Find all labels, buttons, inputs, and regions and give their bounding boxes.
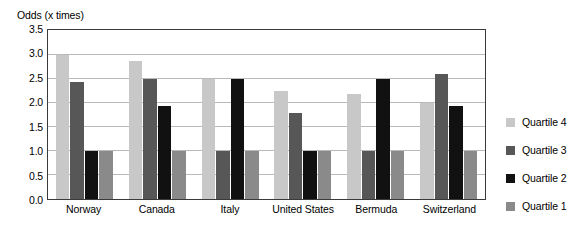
y-axis-title: Odds (x times) xyxy=(17,9,84,21)
bar[interactable] xyxy=(391,151,405,199)
bar[interactable] xyxy=(347,94,361,199)
x-axis-category-label: United States xyxy=(267,203,340,215)
bar-group xyxy=(121,30,194,199)
legend-swatch-icon xyxy=(506,202,515,211)
x-axis-category-label: Bermuda xyxy=(340,203,413,215)
bar[interactable] xyxy=(172,151,186,199)
y-axis-tick-label: 3.0 xyxy=(29,47,43,59)
legend-swatch-icon xyxy=(506,118,515,127)
y-axis-tick-label: 0.5 xyxy=(29,170,43,182)
bar[interactable] xyxy=(216,151,230,199)
bar[interactable] xyxy=(464,151,478,199)
legend-item[interactable]: Quartile 2 xyxy=(506,164,567,192)
legend-swatch-icon xyxy=(506,146,515,155)
bar-group xyxy=(266,30,339,199)
odds-quartile-bar-chart: Odds (x times) 0.00.51.01.52.02.53.03.5 … xyxy=(0,0,586,244)
bar[interactable] xyxy=(129,61,143,199)
bar[interactable] xyxy=(362,151,376,199)
bar[interactable] xyxy=(143,79,157,199)
legend-item[interactable]: Quartile 4 xyxy=(506,108,567,136)
x-axis-category-label: Canada xyxy=(120,203,193,215)
bar[interactable] xyxy=(376,79,390,199)
x-axis-category-labels: NorwayCanadaItalyUnited StatesBermudaSwi… xyxy=(47,203,486,215)
y-axis-tick-label: 2.5 xyxy=(29,72,43,84)
plot-area xyxy=(47,29,486,200)
bar[interactable] xyxy=(85,151,99,199)
y-axis-tick-labels: 0.00.51.01.52.02.53.03.5 xyxy=(0,29,43,200)
bar[interactable] xyxy=(158,106,172,199)
x-axis-category-label: Italy xyxy=(193,203,266,215)
x-axis-category-label: Switzerland xyxy=(413,203,486,215)
bar[interactable] xyxy=(202,79,216,199)
y-axis-tick-label: 3.5 xyxy=(29,23,43,35)
bar[interactable] xyxy=(318,151,332,199)
x-axis-category-label: Norway xyxy=(47,203,120,215)
bar-group xyxy=(412,30,485,199)
legend-label: Quartile 2 xyxy=(522,172,567,184)
y-axis-tick-label: 1.5 xyxy=(29,121,43,133)
bar[interactable] xyxy=(420,103,434,199)
bar-group xyxy=(48,30,121,199)
bar[interactable] xyxy=(99,151,113,199)
y-axis-tick-label: 2.0 xyxy=(29,96,43,108)
legend-label: Quartile 4 xyxy=(522,116,567,128)
bar[interactable] xyxy=(303,151,317,199)
legend-item[interactable]: Quartile 1 xyxy=(506,192,567,220)
bar[interactable] xyxy=(245,151,259,199)
legend-label: Quartile 1 xyxy=(522,200,567,212)
bar[interactable] xyxy=(435,74,449,199)
legend-item[interactable]: Quartile 3 xyxy=(506,136,567,164)
bar[interactable] xyxy=(231,79,245,199)
bars-layer xyxy=(48,30,485,199)
y-axis-tick-label: 1.0 xyxy=(29,145,43,157)
bar-group xyxy=(194,30,267,199)
bar[interactable] xyxy=(56,55,70,199)
legend-swatch-icon xyxy=(506,174,515,183)
bar[interactable] xyxy=(449,106,463,199)
bar[interactable] xyxy=(289,113,303,199)
legend-label: Quartile 3 xyxy=(522,144,567,156)
bar[interactable] xyxy=(274,91,288,199)
bar-group xyxy=(339,30,412,199)
legend: Quartile 4Quartile 3Quartile 2Quartile 1 xyxy=(506,108,567,220)
bar[interactable] xyxy=(70,82,84,199)
y-axis-tick-label: 0.0 xyxy=(29,194,43,206)
